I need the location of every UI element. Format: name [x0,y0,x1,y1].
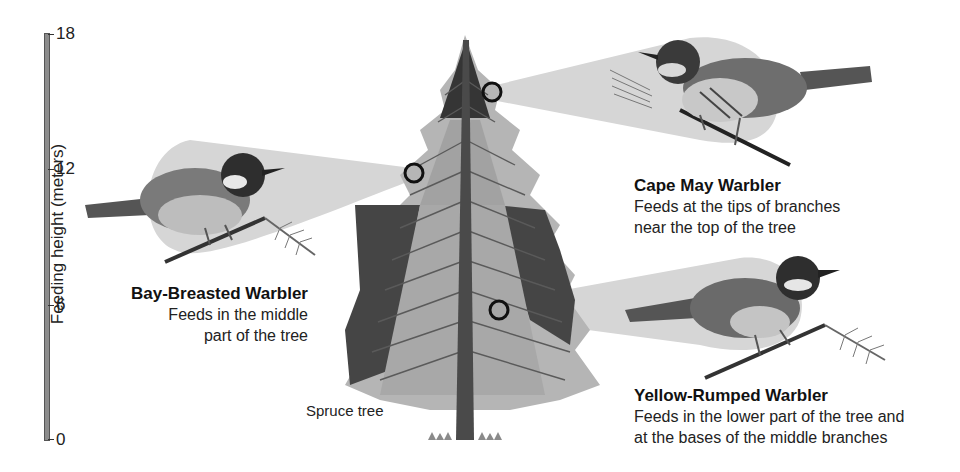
bird-name: Yellow-Rumped Warbler [634,386,904,406]
bird-description-line: Feeds at the tips of branches [634,196,840,217]
tree-label: Spruce tree [306,402,384,419]
bird-name: Bay-Breasted Warbler [100,284,308,304]
bird-name: Cape May Warbler [634,176,840,196]
bird-label-cape-may: Cape May Warbler Feeds at the tips of br… [634,176,840,238]
bird-description-line: part of the tree [100,325,308,346]
bird-label-yellow-rumped: Yellow-Rumped Warbler Feeds in the lower… [634,386,904,448]
bird-description-line: Feeds in the lower part of the tree and [634,406,904,427]
bird-description-line: near the top of the tree [634,217,840,238]
bird-description-line: Feeds in the middle [100,304,308,325]
bird-label-bay-breasted: Bay-Breasted Warbler Feeds in the middle… [100,284,308,346]
bird-description-line: at the bases of the middle branches [634,427,904,448]
